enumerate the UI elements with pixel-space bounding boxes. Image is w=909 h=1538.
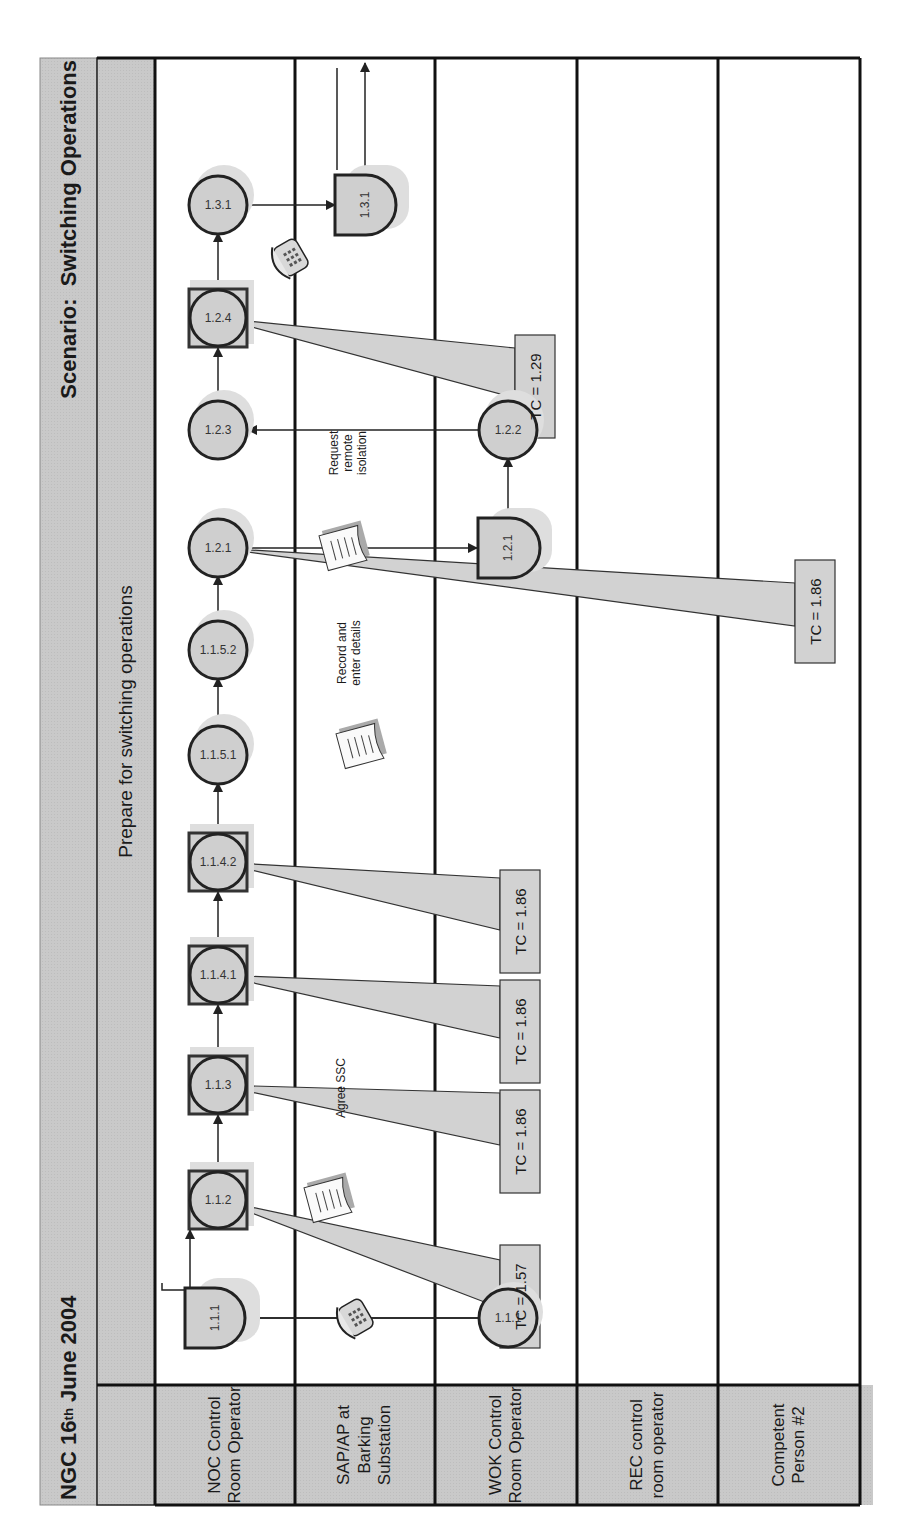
node-1-1-2: 1.1.2 bbox=[188, 1170, 248, 1230]
node-1-2-4: 1.2.4 bbox=[188, 288, 248, 348]
swimlane-diagram: NGC 16th June 2004 Scenario: Switching O… bbox=[0, 0, 909, 1538]
callout-tc-1-2-1: TC = 1.86 bbox=[795, 560, 835, 663]
node-1-1-4-1: 1.1.4.1 bbox=[188, 945, 248, 1005]
annotation-record-details: Record and enter details bbox=[336, 608, 364, 698]
node-1-3-1-sap: 1.3.1 bbox=[335, 175, 395, 235]
lane-label-wok: WOK Control Room Operator bbox=[435, 1385, 577, 1505]
node-1-1-5-2: 1.1.5.2 bbox=[188, 620, 248, 680]
callout-tc-1-2-4: TC = 1.29 bbox=[515, 335, 555, 438]
callout-tc-1-1-4-1: TC = 1.86 bbox=[500, 980, 540, 1083]
node-1-1-5-1: 1.1.5.1 bbox=[188, 725, 248, 785]
scenario-title: Scenario: Switching Operations bbox=[40, 60, 97, 399]
node-1-1-1-noc: 1.1.1 bbox=[185, 1288, 245, 1348]
phase-title: Prepare for switching operations bbox=[97, 58, 155, 1385]
lane-label-rec: REC control room operator bbox=[577, 1385, 718, 1505]
annotation-agree-ssc: Agree SSC bbox=[335, 1043, 349, 1133]
annotation-request-remote-isolation: Request remote isolation bbox=[328, 408, 369, 498]
node-1-1-4-2: 1.1.4.2 bbox=[188, 832, 248, 892]
callout-tc-1-1-2: TC = 1.57 bbox=[500, 1245, 540, 1348]
node-1-1-3: 1.1.3 bbox=[188, 1055, 248, 1115]
lane-label-sap: SAP/AP at Barking Substation bbox=[295, 1385, 435, 1505]
lane-label-competent-person: Competent Person #2 bbox=[718, 1385, 860, 1505]
node-1-2-3: 1.2.3 bbox=[188, 400, 248, 460]
node-1-3-1-noc: 1.3.1 bbox=[188, 175, 248, 235]
node-1-2-1-wok: 1.2.1 bbox=[478, 518, 538, 578]
diagram-date-title: NGC 16th June 2004 bbox=[40, 1296, 97, 1500]
callout-tc-1-1-3: TC = 1.86 bbox=[500, 1090, 540, 1193]
callout-tc-1-1-4-2: TC = 1.86 bbox=[500, 870, 540, 973]
lane-label-noc: NOC Control Room Operator bbox=[155, 1385, 295, 1505]
node-1-2-1-noc: 1.2.1 bbox=[188, 518, 248, 578]
